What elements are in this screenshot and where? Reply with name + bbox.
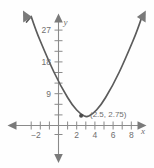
parabola-graph-figure: −2 2 4 6 8 9 18 27 y x (2.5, 2.75) (0, 0, 154, 168)
x-tick-label-8: 8 (129, 130, 134, 140)
x-axis-left-arrowhead (8, 121, 17, 130)
y-tick-label-18: 18 (42, 57, 52, 67)
x-tick-label-4: 4 (93, 130, 98, 140)
vertex-annotation-label: (2.5, 2.75) (90, 110, 127, 119)
y-axis-top-arrowhead (54, 14, 63, 23)
y-axis-label: y (63, 17, 68, 27)
y-tick-label-27: 27 (42, 25, 52, 35)
y-axis-bottom-arrowhead (54, 154, 63, 163)
x-axis (8, 121, 147, 130)
chart-canvas: −2 2 4 6 8 9 18 27 y x (2.5, 2.75) (0, 0, 154, 168)
vertex-marker (79, 114, 83, 118)
axis-tick-labels: −2 2 4 6 8 9 18 27 (31, 25, 134, 139)
x-tick-label-6: 6 (111, 130, 116, 140)
x-tick-label-2: 2 (74, 130, 79, 140)
y-tick-label-9: 9 (46, 89, 51, 99)
x-tick-label--2: −2 (31, 130, 41, 140)
x-axis-label: x (140, 126, 145, 136)
